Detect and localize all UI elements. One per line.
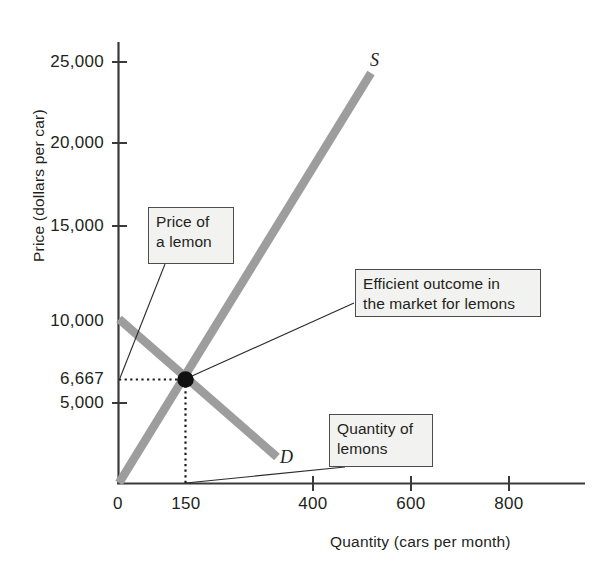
callout-efficient-outcome: Efficient outcome in the market for lemo…: [355, 269, 541, 317]
y-axis-title: Price (dollars per car): [30, 109, 48, 262]
demand-curve-label: D: [280, 447, 293, 468]
x-tick-label-150: 150: [158, 494, 214, 514]
x-axis-title: Quantity (cars per month): [330, 533, 511, 551]
callout-price-of-lemon: Price of a lemon: [148, 207, 234, 264]
equilibrium-point-marker: [177, 371, 194, 388]
chart-figure: 25,000 20,000 15,000 10,000 6,667 5,000 …: [0, 0, 600, 563]
y-tick-label-15000: 15,000: [0, 216, 104, 236]
x-tick-label-600: 600: [383, 494, 439, 514]
y-tick-label-25000: 25,000: [0, 52, 104, 72]
x-tick-label-0: 0: [104, 494, 132, 514]
y-tick-label-20000: 20,000: [0, 133, 104, 153]
y-tick-label-5000: 5,000: [0, 393, 104, 413]
callout-quantity-of-lemons: Quantity of lemons: [329, 414, 433, 467]
efficient-outcome-leader-line: [192, 303, 354, 376]
supply-curve-label: S: [370, 50, 379, 71]
y-tick-label-6667: 6,667: [0, 369, 104, 389]
x-tick-label-800: 800: [481, 494, 537, 514]
demand-curve: [119, 319, 277, 457]
x-tick-label-400: 400: [285, 494, 341, 514]
y-tick-label-10000: 10,000: [0, 311, 104, 331]
quantity-of-lemons-leader-line: [186, 467, 345, 483]
